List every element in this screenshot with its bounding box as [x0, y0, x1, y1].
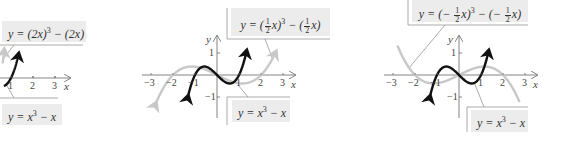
panel-3-y-axis-label: y — [448, 34, 453, 45]
panel-2-top-equation-label: y = (12x)3 − (12x) — [231, 8, 330, 36]
panel-3-x-tick-label: 3 — [522, 78, 527, 88]
equation-text: y = x3 − x — [8, 110, 56, 124]
panel-2-x-tick-label: 3 — [280, 78, 285, 88]
panel-1-x-tick-label: 1 — [8, 81, 13, 91]
panel-2-bottom-equation-label: y = x3 − x — [232, 100, 290, 122]
panel-2-x-tick-label: 2 — [258, 78, 263, 88]
panel-1-top-leader — [4, 45, 14, 58]
panel-1-top-equation-label: y = (2x)3 − (2x) — [2, 21, 86, 42]
panel-1-x-axis-label: x — [64, 81, 69, 92]
panel-3-x-tick-label: 2 — [500, 78, 505, 88]
panel-2-y-axis-label: y — [206, 34, 211, 45]
figure-stage: 123−3−2−11231−1−3−2−11231−1 x x y x y y … — [0, 0, 564, 143]
equation-text: y = (− 12x)3 − (− 12x) — [419, 7, 521, 21]
panel-2-x-tick-label: −2 — [166, 78, 177, 88]
panel-3-y-tick-label: −1 — [447, 92, 458, 102]
equation-text: y = x3 − x — [238, 106, 286, 120]
panel-3-x-tick-label: −1 — [430, 78, 441, 88]
equation-text: y = x3 − x — [477, 116, 525, 130]
panel-2-x-tick-label: −3 — [144, 78, 155, 88]
panel-3-x-tick-label: −2 — [408, 78, 419, 88]
panel-2-top-leader — [265, 39, 273, 60]
panel-1-x-tick-label: 2 — [30, 81, 35, 91]
panel-2-x-axis-label: x — [291, 79, 296, 90]
equation-text: y = (12x)3 − (12x) — [240, 18, 320, 32]
panel-3-x-axis-label: x — [533, 79, 538, 90]
panel-1-bottom-equation-label: y = x3 − x — [2, 104, 62, 125]
equation-text: y = (2x)3 − (2x) — [8, 27, 84, 41]
panel-3-x-tick-label: 1 — [478, 78, 483, 88]
panel-3-top-equation-label: y = (− 12x)3 − (− 12x) — [412, 0, 528, 22]
panel-3-y-tick-label: 1 — [451, 48, 456, 58]
panel-3-top-leader — [409, 25, 445, 68]
panel-1-x-tick-label: 3 — [52, 81, 57, 91]
panel-2-y-tick-label: 1 — [209, 48, 214, 58]
panel-3-x-tick-label: −3 — [386, 78, 397, 88]
panel-2-y-tick-label: −1 — [205, 92, 216, 102]
panel-2-x-tick-label: −1 — [188, 78, 199, 88]
panel-2-x-tick-label: 1 — [236, 78, 241, 88]
panel-1-transformed-curve — [3, 48, 5, 63]
panel-3-bottom-equation-label: y = x3 − x — [471, 110, 528, 132]
